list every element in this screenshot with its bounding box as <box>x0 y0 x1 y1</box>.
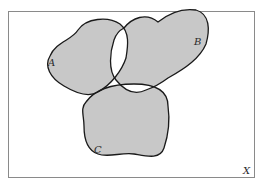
set-c-label: C <box>94 145 102 155</box>
set-b-label: B <box>194 37 201 47</box>
universe-label: X <box>243 166 250 176</box>
set-a-label: A <box>48 58 55 68</box>
venn-diagram: A B C X <box>0 0 264 192</box>
